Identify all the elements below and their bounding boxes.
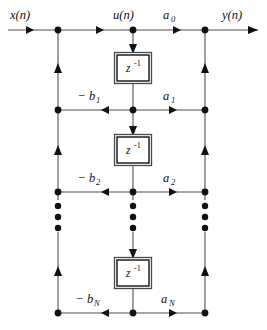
label-an-base: a	[161, 292, 167, 306]
node-row2-center	[130, 189, 137, 196]
arrow-feedforward-up-1	[201, 63, 209, 73]
arrow-feedback-up-3	[54, 266, 62, 276]
label-coefficient-an: a N	[161, 292, 176, 308]
delay-block-2-label: z	[125, 144, 131, 156]
label-a0-base: a	[163, 8, 169, 22]
delay-block-3[interactable]: z -1	[115, 258, 152, 289]
label-coefficient-b2: − b 2	[78, 171, 101, 187]
arrow-a1-right	[169, 106, 177, 114]
arrow-a2-right	[169, 188, 177, 196]
label-coefficient-a0: a 0	[163, 8, 176, 24]
diagram-canvas: z -1 z -1 z -1 x(n) u(n) y(n)	[0, 0, 267, 330]
arrow-an-right	[169, 309, 177, 317]
arrow-feedback-up-2	[54, 145, 62, 155]
label-a0-subscript: 0	[171, 14, 176, 24]
delay-block-2-exponent: -1	[134, 141, 141, 150]
arrow-top-mid-right	[96, 26, 104, 34]
label-bn-subscript: N	[93, 298, 101, 308]
label-a2-base: a	[163, 171, 169, 185]
label-intermediate-signal: u(n)	[113, 8, 134, 22]
label-coefficient-bn: − b N	[76, 292, 101, 308]
arrow-feedforward-up-3	[201, 266, 209, 276]
label-b2-base: b	[89, 171, 95, 185]
delay-block-3-exponent: -1	[134, 264, 141, 273]
node-rown-left	[55, 310, 62, 317]
label-b1-sign: −	[78, 89, 85, 103]
label-b1-subscript: 1	[96, 95, 100, 105]
label-coefficient-a2: a 2	[163, 171, 176, 187]
label-b2-subscript: 2	[96, 177, 101, 187]
node-rown-center	[130, 310, 137, 317]
ellipsis-center-column	[130, 203, 136, 231]
label-coefficient-b1: − b 1	[78, 89, 100, 105]
arrow-b2-left	[101, 188, 109, 196]
label-output-signal: y(n)	[220, 8, 242, 22]
label-a1-subscript: 1	[171, 95, 175, 105]
label-b2-sign: −	[78, 171, 85, 185]
node-row2-left	[55, 189, 62, 196]
delay-block-1-exponent: -1	[134, 59, 141, 68]
node-row2-right	[202, 189, 209, 196]
label-a1-base: a	[163, 89, 169, 103]
delay-block-1-label: z	[125, 62, 131, 74]
label-a2-subscript: 2	[171, 177, 176, 187]
arrow-a0-right	[173, 26, 181, 34]
label-bn-sign: −	[76, 292, 83, 306]
node-row1-left	[55, 107, 62, 114]
label-output-signal-text: y(n)	[220, 8, 242, 22]
ellipsis-feedback-column	[55, 203, 61, 231]
node-output-sum	[202, 27, 209, 34]
node-row1-right	[202, 107, 209, 114]
label-an-subscript: N	[168, 298, 176, 308]
arrow-feedback-up-1	[54, 63, 62, 73]
label-input-signal-text: x(n)	[9, 8, 30, 22]
delay-block-2[interactable]: z -1	[115, 135, 152, 166]
delay-block-3-label: z	[125, 267, 131, 279]
node-u	[130, 27, 137, 34]
node-rown-right	[202, 310, 209, 317]
arrow-bn-left	[101, 309, 109, 317]
label-b1-base: b	[89, 89, 95, 103]
label-bn-base: b	[87, 292, 93, 306]
ellipsis-feedforward-column	[202, 203, 208, 231]
node-row1-center	[130, 107, 137, 114]
label-intermediate-signal-text: u(n)	[113, 8, 134, 22]
arrow-output-right	[248, 26, 258, 34]
arrow-feedforward-up-2	[201, 145, 209, 155]
delay-block-1[interactable]: z -1	[115, 53, 152, 84]
label-coefficient-a1: a 1	[163, 89, 175, 105]
label-input-signal: x(n)	[9, 8, 30, 22]
arrow-b1-left	[101, 106, 109, 114]
node-input-branch	[55, 27, 62, 34]
signal-flow-diagram: z -1 z -1 z -1 x(n) u(n) y(n)	[0, 0, 267, 330]
arrow-input-right	[26, 26, 34, 34]
